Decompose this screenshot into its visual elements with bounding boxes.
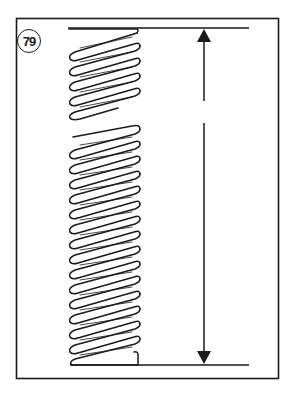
spring-upper-segment xyxy=(69,29,140,120)
figure-frame xyxy=(17,19,279,379)
spring-lower-segment xyxy=(70,125,140,365)
figure-number-label: 79 xyxy=(17,29,41,53)
arrow-head-down-icon xyxy=(197,351,211,364)
spring-diagram xyxy=(0,0,293,398)
dimension-arrow xyxy=(197,29,211,364)
